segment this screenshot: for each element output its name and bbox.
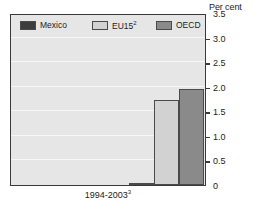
x-axis-category-label: 1994-20033 (10, 189, 206, 200)
legend-item-mexico[interactable]: Mexico (20, 20, 67, 30)
bar-chart: Per cent 3.53.02.52.01.51.00.50 MexicoEU… (0, 0, 267, 213)
tick-mark (206, 161, 210, 163)
legend-swatch-icon (92, 21, 108, 30)
y-tick-label: 3.5 (213, 9, 226, 19)
y-tick-label: 1.0 (213, 132, 226, 142)
tick-mark (206, 88, 210, 90)
legend-item-eu15[interactable]: EU152 (92, 20, 137, 31)
bars-group (11, 15, 205, 185)
plot-area (10, 14, 206, 186)
y-tick-label: 0.5 (213, 156, 226, 166)
bar-eu15 (154, 100, 179, 185)
legend-swatch-icon (156, 21, 172, 30)
bar-oecd (179, 89, 204, 185)
legend-swatch-icon (20, 21, 36, 30)
tick-mark (206, 137, 210, 139)
y-tick-label: 2.0 (213, 83, 226, 93)
legend-label: Mexico (40, 20, 67, 30)
legend-item-oecd[interactable]: OECD (156, 20, 201, 30)
legend-label: EU152 (112, 20, 137, 31)
tick-mark (206, 39, 210, 41)
y-tick-label: 0 (213, 181, 218, 191)
legend-label: OECD (176, 20, 201, 30)
legend: MexicoEU152OECD (20, 20, 206, 35)
tick-mark (206, 112, 210, 114)
y-tick-label: 1.5 (213, 107, 226, 117)
bar-mexico (129, 183, 154, 185)
y-tick-label: 2.5 (213, 58, 226, 68)
tick-mark (206, 63, 210, 65)
y-tick-label: 3.0 (213, 34, 226, 44)
